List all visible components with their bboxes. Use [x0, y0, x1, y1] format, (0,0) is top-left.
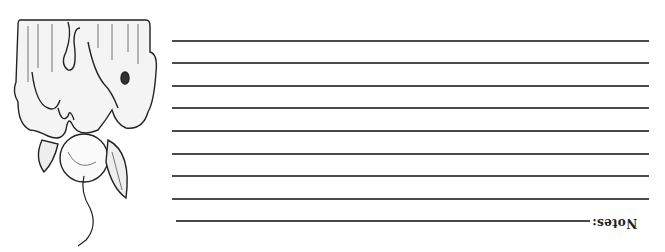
writing-line: [176, 220, 590, 222]
melting-wax-apple-illustration: [8, 12, 163, 248]
writing-line: [172, 175, 649, 177]
writing-line: [172, 130, 649, 132]
writing-line: [172, 198, 649, 200]
writing-line: [172, 40, 649, 42]
writing-line: [172, 107, 649, 109]
notes-label: Notes:: [592, 216, 637, 230]
notes-card: Notes:: [0, 0, 665, 252]
writing-line: [172, 62, 649, 64]
writing-line: [172, 85, 649, 87]
writing-line: [172, 153, 649, 155]
